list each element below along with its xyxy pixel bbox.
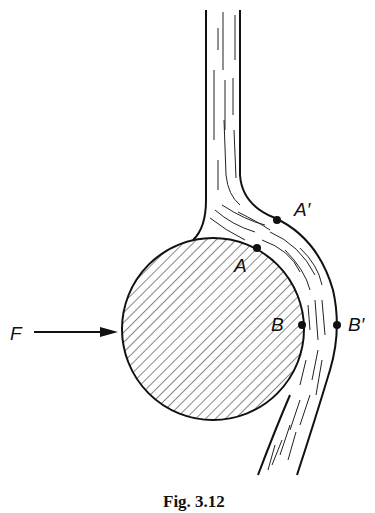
figure-diagram: F A′ A B B′ Fig. 3.12 bbox=[0, 0, 375, 513]
force-arrow bbox=[34, 327, 118, 337]
label-a: A bbox=[233, 255, 247, 276]
figure-caption: Fig. 3.12 bbox=[163, 492, 225, 511]
label-b-prime: B′ bbox=[348, 314, 366, 335]
force-label: F bbox=[10, 323, 23, 344]
label-b: B bbox=[271, 314, 284, 335]
label-a-prime: A′ bbox=[293, 199, 312, 220]
